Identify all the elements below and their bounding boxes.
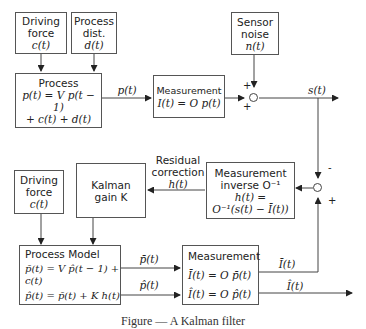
block-formula: O⁻¹(s(t) − Ī(t)) [212,203,288,215]
signal-label-p: p(t) [112,84,142,96]
block-formula: p(t) = V p(t − 1) [16,89,101,113]
block-formula: d(t) [84,39,103,51]
s-minus-sign: - [328,162,332,173]
block-title: Process Model [25,248,100,260]
block-label: gain K [95,191,128,203]
measurement-plus-sign: + [243,101,251,112]
block-formula: Î(t) = O p̂(t) [188,288,251,300]
block-formula: n(t) [245,40,264,52]
figure-caption: Figure — A Kalman filter [0,314,366,329]
block-formula: Ī(t) = O p̄(t) [188,269,251,281]
block-label: inverse O⁻¹ [221,179,281,191]
driving-force-block-top: Driving force c(t) [15,12,67,54]
signal-label-i-bar: Ī(t) [272,258,302,270]
block-label: force [26,186,52,198]
signal-label-i-hat: Î(t) [280,280,310,292]
block-label: noise [241,28,269,40]
signal-label-p-bar: p̄(t) [134,253,164,265]
block-label: force [28,27,54,39]
label-line: Residual [148,154,208,166]
label-formula: h(t) [148,178,208,190]
kalman-gain-block: Kalman gain K [76,163,146,218]
process-block: Process p(t) = V p(t − 1) + c(t) + d(t) [15,73,102,128]
block-label: Process [74,15,114,27]
block-formula: c(t) [30,198,48,210]
block-title: Measurement [156,85,221,97]
residual-correction-label: Residual correction h(t) [148,154,208,190]
measurement-inverse-block: Measurement inverse O⁻¹ h(t) = O⁻¹(s(t) … [206,162,295,219]
driving-force-block-bottom: Driving force c(t) [14,170,64,214]
block-formula: I(t) = O p(t) [157,97,220,109]
signal-label-s: s(t) [302,84,332,96]
block-title: Measurement [188,250,260,262]
block-label: Driving [20,174,58,186]
block-formula: c(t) [32,39,50,51]
noise-plus-sign: + [243,80,251,91]
ibar-plus-sign: + [328,195,336,206]
residual-summing-junction [313,183,322,192]
block-formula: p̂(t) = p̄(t) + K h(t) [25,290,120,302]
signal-label-p-hat: p̂(t) [134,279,164,291]
block-title: Kalman [91,179,130,191]
block-label: Sensor [237,16,273,28]
block-title: Measurement [214,167,286,179]
measurement-block-bottom: Measurement Ī(t) = O p̄(t) Î(t) = O p̂(t… [182,245,259,305]
block-formula: h(t) = [235,191,266,203]
process-model-block: Process Model p̄(t) = V p̂(t − 1) + c(t)… [19,245,121,305]
block-formula: + c(t) + d(t) [26,113,91,125]
block-formula: p̄(t) = V p̂(t − 1) + c(t) [25,263,120,287]
sensor-noise-block: Sensor noise n(t) [231,12,279,55]
process-disturbance-block: Process dist. d(t) [71,12,117,54]
block-title: Process [39,77,79,89]
measurement-block-top: Measurement I(t) = O p(t) [153,75,225,118]
block-label: dist. [83,27,106,39]
label-line: correction [148,166,208,178]
block-label: Driving [22,15,60,27]
